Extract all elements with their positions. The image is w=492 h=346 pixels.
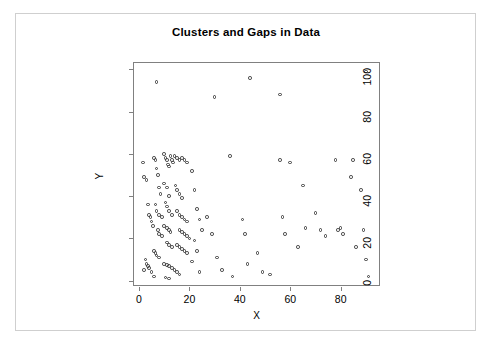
data-point — [213, 95, 217, 99]
data-point — [167, 194, 171, 198]
data-point — [324, 234, 328, 238]
data-point — [367, 275, 371, 279]
data-point — [195, 249, 199, 253]
data-point — [169, 154, 173, 158]
data-point — [150, 270, 154, 274]
x-tick-label: 80 — [335, 293, 347, 305]
data-point — [147, 266, 151, 270]
data-point — [283, 232, 287, 236]
data-point — [228, 154, 232, 158]
data-point — [180, 196, 184, 200]
y-axis-title: Y — [94, 173, 105, 180]
data-point — [190, 260, 194, 264]
data-point — [175, 188, 179, 192]
data-point — [167, 277, 171, 281]
data-point — [341, 232, 345, 236]
x-tick-label: 60 — [284, 293, 296, 305]
data-point — [364, 258, 368, 262]
data-point — [281, 215, 285, 219]
x-axis-title: X — [133, 310, 380, 321]
data-point — [142, 268, 146, 272]
data-point — [188, 237, 192, 241]
data-point — [162, 152, 166, 156]
data-point — [151, 224, 155, 228]
data-point — [304, 226, 308, 230]
data-point — [159, 192, 163, 196]
x-tick-label: 40 — [234, 293, 246, 305]
data-point — [185, 161, 189, 165]
scatter-plot-screenshot: Clusters and Gaps in Data 020406080100 0… — [0, 0, 492, 346]
data-point — [288, 161, 292, 165]
data-point — [205, 215, 209, 219]
y-tick-label: 60 — [361, 153, 373, 165]
data-point — [165, 205, 169, 209]
data-point — [261, 270, 265, 274]
data-point — [185, 220, 189, 224]
data-point — [157, 256, 161, 260]
y-tick-mark — [129, 238, 133, 239]
data-point — [198, 218, 202, 222]
data-point — [150, 220, 154, 224]
data-point — [170, 245, 174, 249]
data-point — [256, 251, 260, 255]
data-point — [195, 207, 199, 211]
data-point — [314, 211, 318, 215]
data-point — [215, 256, 219, 260]
data-point — [146, 203, 150, 207]
data-points-layer — [134, 63, 379, 285]
data-point — [359, 188, 363, 192]
data-point — [165, 158, 169, 162]
y-tick-label: 100 — [361, 68, 373, 86]
x-tick-label: 0 — [136, 293, 142, 305]
data-point — [231, 275, 235, 279]
data-point — [339, 226, 343, 230]
data-point — [155, 209, 159, 213]
data-point — [351, 158, 355, 162]
data-point — [198, 270, 202, 274]
data-point — [193, 188, 197, 192]
data-point — [178, 273, 182, 277]
data-point — [171, 161, 175, 165]
data-point — [185, 251, 189, 255]
data-point — [145, 178, 149, 182]
data-point — [144, 258, 148, 262]
y-tick-mark — [129, 281, 133, 282]
data-point — [167, 165, 171, 169]
data-point — [193, 239, 197, 243]
data-point — [175, 209, 179, 213]
y-tick-mark — [129, 69, 133, 70]
data-point — [200, 228, 204, 232]
data-point — [349, 175, 353, 179]
data-point — [178, 192, 182, 196]
y-tick-mark — [129, 112, 133, 113]
data-point — [301, 184, 305, 188]
data-point — [154, 203, 158, 207]
data-point — [155, 80, 159, 84]
data-point — [268, 273, 272, 277]
y-tick-mark — [129, 154, 133, 155]
data-point — [296, 245, 300, 249]
x-tick-mark — [341, 287, 342, 291]
data-point — [241, 218, 245, 222]
x-tick-mark — [240, 287, 241, 291]
data-point — [248, 76, 252, 80]
data-point — [170, 213, 174, 217]
data-point — [174, 184, 178, 188]
x-tick-mark — [189, 287, 190, 291]
page-title: Clusters and Gaps in Data — [0, 26, 492, 38]
data-point — [164, 201, 168, 205]
y-tick-label: 80 — [361, 111, 373, 123]
y-tick-label: 0 — [361, 280, 373, 286]
data-point — [160, 234, 164, 238]
data-point — [319, 228, 323, 232]
y-tick-label: 40 — [361, 195, 373, 207]
plot-panel: 020406080100 020406080 — [133, 62, 380, 286]
data-point — [160, 215, 164, 219]
x-tick-mark — [139, 287, 140, 291]
data-point — [354, 245, 358, 249]
data-point — [156, 173, 160, 177]
data-point — [210, 232, 214, 236]
x-tick-mark — [290, 287, 291, 291]
data-point — [167, 209, 171, 213]
data-point — [141, 161, 145, 165]
